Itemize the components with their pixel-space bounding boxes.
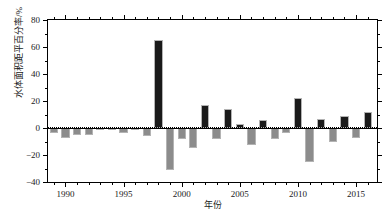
x-tick-minor [263, 17, 264, 20]
y-tick-major [43, 20, 48, 21]
y-tick-minor [45, 61, 48, 62]
zero-axis-line [48, 128, 377, 129]
x-tick-minor [135, 17, 136, 20]
x-tick-minor [147, 17, 148, 20]
y-tick-major [377, 74, 382, 75]
x-tick-minor [344, 17, 345, 20]
x-tick-minor [193, 17, 194, 20]
x-tick-minor [54, 182, 55, 185]
x-tick-major [65, 182, 66, 187]
bar [352, 128, 360, 138]
bar [247, 128, 255, 145]
y-tick-major [377, 20, 382, 21]
x-tick-minor [89, 17, 90, 20]
y-tick-major [377, 128, 382, 129]
x-tick-minor [77, 182, 78, 185]
bar [73, 128, 81, 135]
y-tick-minor [45, 169, 48, 170]
bar [329, 128, 337, 142]
bar [143, 128, 151, 136]
x-tick-minor [344, 182, 345, 185]
y-tick-major [377, 101, 382, 102]
x-tick-minor [193, 182, 194, 185]
y-tick-major [377, 47, 382, 48]
x-tick-minor [251, 182, 252, 185]
y-tick-label: 40 [31, 69, 40, 79]
bar [201, 105, 209, 128]
x-tick-major [124, 15, 125, 20]
x-tick-major [298, 15, 299, 20]
y-tick-minor [45, 88, 48, 89]
x-tick-minor [170, 17, 171, 20]
y-tick-minor [45, 142, 48, 143]
y-tick-major [43, 182, 48, 183]
bar [212, 128, 220, 139]
y-tick-minor [45, 34, 48, 35]
x-tick-minor [54, 17, 55, 20]
y-tick-minor [377, 142, 380, 143]
x-tick-minor [333, 17, 334, 20]
bar [166, 128, 174, 170]
bar [61, 128, 69, 138]
y-tick-major [43, 101, 48, 102]
bar [224, 109, 232, 128]
x-tick-major [65, 15, 66, 20]
y-tick-minor [377, 61, 380, 62]
x-tick-minor [275, 17, 276, 20]
y-tick-minor [45, 115, 48, 116]
bar [85, 128, 93, 135]
x-tick-minor [228, 17, 229, 20]
y-tick-major [377, 182, 382, 183]
x-tick-minor [147, 182, 148, 185]
x-tick-minor [112, 17, 113, 20]
y-tick-minor [377, 34, 380, 35]
x-tick-minor [228, 182, 229, 185]
x-tick-minor [333, 182, 334, 185]
x-tick-minor [100, 182, 101, 185]
x-tick-major [124, 182, 125, 187]
zero-reference-line [48, 127, 377, 128]
x-tick-minor [158, 17, 159, 20]
x-tick-minor [286, 182, 287, 185]
bar [178, 128, 186, 139]
bar [364, 112, 372, 128]
x-tick-minor [217, 182, 218, 185]
x-tick-major [182, 15, 183, 20]
x-tick-minor [275, 182, 276, 185]
x-tick-minor [158, 182, 159, 185]
x-tick-minor [112, 182, 113, 185]
bar [294, 98, 302, 128]
y-tick-label: −20 [26, 150, 40, 160]
x-tick-minor [321, 17, 322, 20]
x-tick-minor [310, 182, 311, 185]
x-tick-minor [205, 17, 206, 20]
x-tick-major [240, 15, 241, 20]
y-tick-label: 60 [31, 42, 40, 52]
bar [305, 128, 313, 162]
x-tick-minor [89, 182, 90, 185]
y-tick-major [43, 74, 48, 75]
x-tick-major [182, 182, 183, 187]
x-tick-minor [77, 17, 78, 20]
x-tick-minor [368, 182, 369, 185]
x-tick-minor [251, 17, 252, 20]
x-tick-minor [368, 17, 369, 20]
y-tick-label: 20 [31, 96, 40, 106]
y-axis-title: 水体面积距平百分率/% [12, 0, 25, 123]
y-tick-label: 80 [31, 15, 40, 25]
y-tick-minor [377, 88, 380, 89]
x-tick-minor [135, 182, 136, 185]
x-axis-title: 年份 [47, 198, 378, 211]
x-tick-major [356, 15, 357, 20]
figure: 水体面积距平百分率/% −40−200204060801990199520002… [0, 0, 386, 223]
x-tick-minor [100, 17, 101, 20]
x-tick-major [356, 182, 357, 187]
bar [154, 40, 162, 128]
y-tick-minor [377, 169, 380, 170]
x-tick-major [240, 182, 241, 187]
bar [271, 128, 279, 139]
y-tick-minor [377, 115, 380, 116]
y-tick-label: −40 [26, 177, 40, 187]
y-tick-major [43, 47, 48, 48]
bar [189, 128, 197, 148]
